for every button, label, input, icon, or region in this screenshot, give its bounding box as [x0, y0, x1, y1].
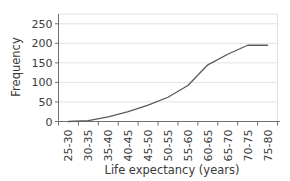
- x-axis-title: Life expectancy (years): [104, 163, 239, 177]
- x-axis-tick-label: 45-50: [142, 130, 155, 162]
- y-axis-tick-label: 100: [32, 76, 53, 89]
- gridline-group: [59, 14, 278, 122]
- y-axis-tick-label: 50: [39, 96, 53, 109]
- y-axis-title: Frequency: [9, 37, 23, 97]
- x-axis-tick-label: 40-45: [122, 130, 135, 162]
- y-axis-tick-group: [55, 24, 59, 122]
- x-axis-tick-label: 55-60: [182, 130, 195, 162]
- chart-canvas: 050100150200250 25-3030-3535-4040-4545-5…: [0, 0, 290, 181]
- y-axis-tick-label: 200: [32, 37, 53, 50]
- x-axis-tick-label: 50-55: [162, 130, 175, 162]
- x-axis-tick-label-group: 25-3030-3535-4040-4545-5050-5555-6060-65…: [62, 130, 274, 162]
- x-axis-tick-label: 70-75: [242, 130, 255, 162]
- x-axis-tick-label: 60-65: [202, 130, 215, 162]
- x-axis-tick-group: [59, 122, 278, 126]
- x-axis-tick-label: 25-30: [62, 130, 75, 162]
- y-axis-tick-label: 150: [32, 57, 53, 70]
- x-axis-tick-label: 30-35: [82, 130, 95, 162]
- y-axis-tick-label: 250: [32, 18, 53, 31]
- cumulative-frequency-chart: 050100150200250 25-3030-3535-4040-4545-5…: [0, 0, 290, 181]
- x-axis-tick-label: 75-80: [262, 130, 275, 162]
- y-axis-tick-label: 0: [46, 116, 53, 129]
- y-axis-tick-label-group: 050100150200250: [32, 18, 53, 129]
- x-axis-tick-label: 65-70: [222, 130, 235, 162]
- cumulative-frequency-line: [68, 45, 267, 121]
- x-axis-tick-label: 35-40: [102, 130, 115, 162]
